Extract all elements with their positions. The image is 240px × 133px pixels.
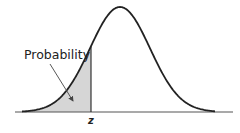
z-label: z [87, 115, 94, 126]
probability-label: Probability [24, 47, 91, 62]
normal-distribution-diagram: Probability z [0, 0, 240, 133]
